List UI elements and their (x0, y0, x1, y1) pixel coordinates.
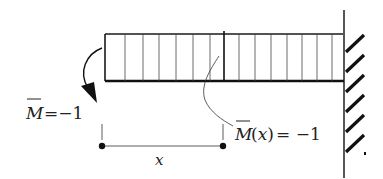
moment-arrow-icon (81, 48, 102, 103)
distance-dimension: x (99, 124, 226, 169)
internal-moment-value: = −1 (276, 124, 321, 144)
applied-moment-label: M =−1 (25, 99, 83, 123)
internal-moment-label: M (x) = −1 (234, 121, 321, 144)
applied-moment-value: =−1 (44, 103, 83, 123)
end-point-dot (220, 143, 226, 149)
fixed-wall-support (344, 10, 366, 178)
moment-diagram-hatching (125, 34, 332, 81)
beam (105, 31, 344, 81)
applied-moment-symbol: M (25, 103, 44, 123)
internal-moment-arg: (x) (251, 124, 274, 144)
leader-line (204, 56, 233, 126)
start-point-dot (99, 143, 105, 149)
distance-label: x (155, 151, 164, 169)
cantilever-diagram: M =−1 M (x) = −1 x (0, 0, 383, 179)
